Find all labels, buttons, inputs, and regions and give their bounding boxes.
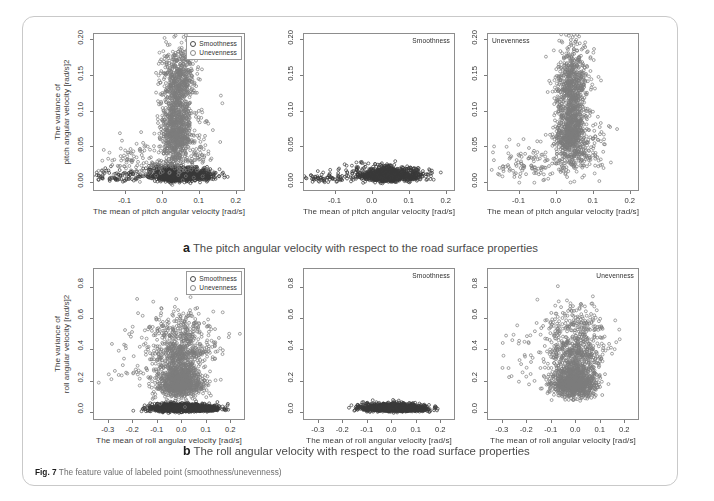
y-tick-label: 0.00: [278, 173, 302, 191]
x-tick-label: 0.1: [587, 196, 598, 205]
panel-corner-label: Smoothness: [412, 37, 450, 44]
y-tick-label: 0.0: [278, 403, 302, 421]
y-tick-label: 0.4: [278, 340, 302, 358]
panel-corner-label: Unevenness: [492, 37, 530, 44]
x-tick-mark: [409, 191, 410, 194]
x-tick-mark: [575, 420, 576, 423]
x-tick-label: 0.0: [156, 196, 167, 205]
x-tick-mark: [125, 191, 126, 194]
x-tick-label: -0.1: [150, 425, 163, 434]
x-tick-mark: [624, 420, 625, 423]
plot-area-b-middle: Smoothness: [303, 268, 455, 420]
x-tick-label: 0.1: [200, 425, 211, 434]
subcaption-text-a: The pitch angular velocity with respect …: [193, 242, 538, 254]
x-tick-label: 0.1: [403, 196, 414, 205]
legend-item: Smoothness: [190, 39, 237, 48]
x-tick-label: -0.1: [512, 196, 525, 205]
y-tick-label: 0.2: [462, 372, 486, 390]
legend-label: Smoothness: [199, 40, 237, 47]
y-tick-label: 0.0: [462, 403, 486, 421]
y-tick-label: 0.10: [278, 102, 302, 120]
x-tick-mark: [342, 420, 343, 423]
x-tick-label: 0.1: [594, 425, 605, 434]
subcaption-letter-b: b: [183, 444, 191, 458]
scatter-canvas-b-right: [488, 269, 639, 420]
panel-corner-label: Smoothness: [412, 272, 450, 279]
x-tick-mark: [593, 191, 594, 194]
x-tick-mark: [181, 420, 182, 423]
x-tick-label: 0.2: [435, 425, 446, 434]
open-circle-icon: [190, 41, 196, 47]
x-tick-mark: [367, 420, 368, 423]
x-tick-label: -0.2: [520, 425, 533, 434]
x-tick-label: 0.2: [230, 196, 241, 205]
y-tick-label: 0.20: [68, 30, 92, 48]
y-tick-label: 0.4: [462, 340, 486, 358]
y-tick-label: 0.6: [68, 309, 92, 327]
plot-area-a-left: Smoothness Unevenness: [93, 33, 245, 191]
x-tick-mark: [162, 191, 163, 194]
x-tick-mark: [372, 191, 373, 194]
panel-b-left: Smoothness Unevenness -0.3-0.2-0.10.00.1…: [61, 264, 249, 460]
x-tick-mark: [206, 420, 207, 423]
x-tick-label: -0.3: [495, 425, 508, 434]
x-tick-mark: [132, 420, 133, 423]
x-tick-mark: [391, 420, 392, 423]
open-circle-icon: [190, 285, 196, 291]
x-tick-label: 0.1: [410, 425, 421, 434]
x-axis-label: The mean of pitch angular velocity [rad/…: [487, 207, 639, 216]
open-circle-icon: [190, 50, 196, 56]
subcaption-letter-a: a: [183, 241, 190, 255]
y-tick-label: 0.15: [68, 66, 92, 84]
x-axis-label: The mean of pitch angular velocity [rad/…: [93, 207, 245, 216]
subcaption-b: b The roll angular velocity with respect…: [183, 444, 530, 458]
x-tick-label: -0.2: [126, 425, 139, 434]
plot-area-b-right: Unevenness: [487, 268, 639, 420]
y-tick-label: 0.05: [68, 137, 92, 155]
y-axis-label: The variance of: [53, 84, 62, 140]
x-tick-mark: [230, 420, 231, 423]
y-tick-label: 0.8: [278, 278, 302, 296]
y-axis-label: The variance of: [53, 316, 62, 372]
figure-number: Fig. 7: [35, 467, 57, 477]
scatter-canvas-a-middle: [304, 34, 455, 191]
x-tick-label: -0.3: [101, 425, 114, 434]
x-tick-mark: [526, 420, 527, 423]
y-tick-label: 0.8: [462, 278, 486, 296]
x-tick-label: 0.2: [440, 196, 451, 205]
x-tick-label: -0.1: [118, 196, 131, 205]
y-tick-label: 0.00: [68, 173, 92, 191]
x-tick-label: 0.0: [366, 196, 377, 205]
x-tick-mark: [502, 420, 503, 423]
figure-frame: Smoothness Unevenness -0.10.00.10.20.000…: [22, 16, 678, 486]
y-tick-label: 0.15: [462, 66, 486, 84]
figure-caption-text: The feature value of labeled point (smoo…: [59, 467, 282, 477]
panel-a-middle: Smoothness -0.10.00.10.20.000.050.100.15…: [271, 29, 459, 229]
y-tick-label: 0.4: [68, 340, 92, 358]
x-tick-mark: [446, 191, 447, 194]
x-tick-mark: [630, 191, 631, 194]
y-tick-label: 0.00: [462, 173, 486, 191]
panel-corner-label: Unevenness: [596, 272, 634, 279]
legend-item: Smoothness: [190, 274, 237, 283]
x-tick-label: -0.1: [360, 425, 373, 434]
y-tick-label: 0.6: [278, 309, 302, 327]
x-tick-label: -0.3: [311, 425, 324, 434]
y-tick-label: 0.10: [68, 102, 92, 120]
subcaption-a: a The pitch angular velocity with respec…: [183, 241, 538, 255]
legend-a-left: Smoothness Unevenness: [186, 36, 242, 60]
x-tick-mark: [199, 191, 200, 194]
panel-b-middle: Smoothness -0.3-0.2-0.10.00.10.20.00.20.…: [271, 264, 459, 460]
y-tick-label: 0.10: [462, 102, 486, 120]
x-axis-label: The mean of pitch angular velocity [rad/…: [303, 207, 455, 216]
x-tick-label: -0.1: [544, 425, 557, 434]
plot-area-b-left: Smoothness Unevenness: [93, 268, 245, 420]
y-axis-label: roll angular velocity [rad/s]2: [62, 295, 71, 394]
x-tick-mark: [236, 191, 237, 194]
y-tick-label: 0.2: [278, 372, 302, 390]
x-tick-mark: [157, 420, 158, 423]
x-tick-label: 0.0: [386, 425, 397, 434]
scatter-canvas-a-right: [488, 34, 639, 191]
legend-b-left: Smoothness Unevenness: [186, 271, 242, 295]
y-tick-label: 0.05: [278, 137, 302, 155]
